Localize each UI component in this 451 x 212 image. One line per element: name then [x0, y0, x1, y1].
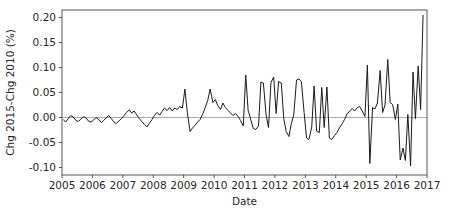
y-tick-label: 0.15: [33, 36, 56, 48]
y-tick-label: 0.20: [33, 11, 56, 23]
x-tick-label: 2011: [231, 179, 258, 191]
x-tick-label: 2013: [292, 179, 319, 191]
chart-canvas: 2005200620072008200920102011201220132014…: [0, 0, 451, 212]
x-tick-label: 2017: [414, 179, 441, 191]
y-axis-title: Chg 2015-Chg 2010 (%): [4, 29, 16, 156]
x-tick-label: 2007: [109, 179, 136, 191]
x-tick-label: 2009: [170, 179, 197, 191]
x-tick-label: 2010: [201, 179, 228, 191]
y-tick-label: -0.10: [29, 161, 56, 173]
x-tick-label: 2015: [353, 179, 380, 191]
chart-figure: 2005200620072008200920102011201220132014…: [0, 0, 451, 212]
x-tick-label: 2008: [140, 179, 167, 191]
y-tick-label: -0.05: [29, 136, 56, 148]
y-tick-label: 0.05: [33, 86, 56, 98]
x-tick-label: 2016: [383, 179, 410, 191]
x-tick-label: 2005: [49, 179, 76, 191]
x-tick-label: 2006: [79, 179, 106, 191]
y-tick-label: 0.10: [33, 61, 56, 73]
x-tick-label: 2012: [262, 179, 289, 191]
x-axis-title: Date: [232, 195, 257, 207]
x-tick-label: 2014: [322, 179, 349, 191]
y-tick-label: 0.00: [33, 111, 56, 123]
